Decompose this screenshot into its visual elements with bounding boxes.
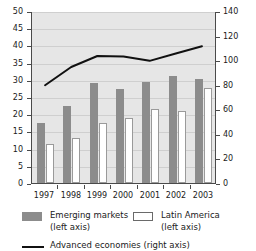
left-axis-tick xyxy=(27,132,31,133)
x-axis-tick xyxy=(110,185,111,189)
left-axis-tick xyxy=(27,81,31,82)
legend-sublabel-latin-america: (left axis) xyxy=(161,222,201,233)
left-axis-label-20: 20 xyxy=(1,111,23,119)
x-axis-tick xyxy=(137,185,138,189)
left-axis-tick xyxy=(27,29,31,30)
x-axis-label-1999: 1999 xyxy=(83,191,111,200)
legend-label-emerging-markets: Emerging markets xyxy=(50,210,128,221)
x-axis-tick xyxy=(57,185,58,189)
right-axis-label-140: 140 xyxy=(223,8,247,16)
legend-label-latin-america: Latin America xyxy=(161,210,220,221)
left-axis-label-25: 25 xyxy=(1,94,23,102)
x-axis-label-1998: 1998 xyxy=(57,191,85,200)
right-axis-label-100: 100 xyxy=(223,57,247,65)
left-axis-tick xyxy=(27,167,31,168)
legend-label-advanced-economies: Advanced economies (right axis) xyxy=(50,240,190,251)
left-axis-tick xyxy=(27,12,31,13)
right-axis-label-40: 40 xyxy=(223,131,247,139)
right-axis-tick xyxy=(216,110,220,111)
left-axis-label-10: 10 xyxy=(1,146,23,154)
right-axis-label-0: 0 xyxy=(223,180,247,188)
line-path-advanced-economies xyxy=(45,46,202,85)
right-axis-tick xyxy=(216,37,220,38)
left-axis-tick xyxy=(27,184,31,185)
chart-legend: Emerging markets (left axis) Latin Ameri… xyxy=(0,203,256,251)
left-axis-label-45: 45 xyxy=(1,25,23,33)
right-axis-tick xyxy=(216,159,220,160)
legend-swatch-advanced-economies xyxy=(22,246,44,248)
x-axis-tick xyxy=(163,185,164,189)
line-series-advanced-economies xyxy=(32,12,215,183)
left-axis-label-40: 40 xyxy=(1,42,23,50)
left-axis-label-50: 50 xyxy=(1,8,23,16)
x-axis-tick xyxy=(84,185,85,189)
right-axis-tick xyxy=(216,86,220,87)
chart-figure: 05101520253035404550 020406080100120140 … xyxy=(0,0,256,251)
right-axis-tick xyxy=(216,61,220,62)
left-axis-label-30: 30 xyxy=(1,77,23,85)
legend-swatch-emerging-markets xyxy=(22,212,42,221)
x-axis-tick xyxy=(190,185,191,189)
left-axis-label-35: 35 xyxy=(1,60,23,68)
plot-area xyxy=(31,12,216,184)
right-axis-label-20: 20 xyxy=(223,155,247,163)
right-axis-tick xyxy=(216,184,220,185)
x-axis-label-2000: 2000 xyxy=(109,191,137,200)
left-axis-tick xyxy=(27,98,31,99)
left-axis-tick xyxy=(27,64,31,65)
left-axis-label-0: 0 xyxy=(1,180,23,188)
right-axis-label-80: 80 xyxy=(223,82,247,90)
left-axis-label-5: 5 xyxy=(1,163,23,171)
legend-sublabel-emerging-markets: (left axis) xyxy=(50,222,90,233)
x-axis-label-2003: 2003 xyxy=(189,191,217,200)
left-axis-tick xyxy=(27,46,31,47)
right-axis-tick xyxy=(216,135,220,136)
x-axis-label-2002: 2002 xyxy=(162,191,190,200)
left-axis-label-15: 15 xyxy=(1,128,23,136)
right-axis-tick xyxy=(216,12,220,13)
left-axis-tick xyxy=(27,115,31,116)
left-axis-tick xyxy=(27,150,31,151)
legend-swatch-latin-america xyxy=(133,212,153,221)
x-axis-label-1997: 1997 xyxy=(30,191,58,200)
right-axis-label-120: 120 xyxy=(223,33,247,41)
x-axis-label-2001: 2001 xyxy=(136,191,164,200)
right-axis-label-60: 60 xyxy=(223,106,247,114)
